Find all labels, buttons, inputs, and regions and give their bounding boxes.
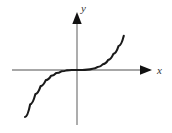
x-axis-label: x xyxy=(156,64,162,76)
y-axis-label: y xyxy=(80,2,86,14)
arrow-right-icon xyxy=(140,65,152,74)
cubic-function-figure: y x xyxy=(0,0,172,133)
cubic-curve-path xyxy=(25,36,124,117)
chart-canvas: y x xyxy=(0,0,172,133)
